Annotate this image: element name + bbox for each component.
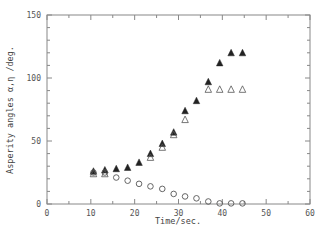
open-triangle-marker (205, 86, 212, 93)
filled-triangle-marker (136, 159, 143, 166)
x-tick-label: 10 (86, 209, 96, 218)
x-tick-label: 0 (45, 209, 50, 218)
x-tick-label: 50 (261, 209, 271, 218)
open-circle-marker (136, 181, 142, 187)
plot-frame (47, 15, 310, 204)
y-tick-label: 50 (31, 137, 41, 146)
open-triangle-marker (216, 86, 223, 93)
filled-triangle-marker (193, 97, 200, 104)
open-circle-marker (148, 184, 154, 190)
filled-triangle-marker (239, 49, 246, 56)
open-circle-marker (217, 201, 223, 207)
y-tick-label: 0 (36, 200, 41, 209)
filled-triangle-marker (182, 107, 189, 114)
filled-triangle-marker (113, 165, 120, 172)
filled-triangle-marker (216, 59, 223, 65)
axis-ticks (47, 15, 310, 204)
open-triangle-marker (228, 86, 235, 93)
scatter-chart: 0102030405060050100150 Time/sec. Asperit… (0, 0, 323, 241)
tick-labels: 0102030405060050100150 (27, 11, 315, 218)
open-circle-marker (228, 201, 234, 207)
data-points (90, 49, 246, 206)
open-circle-marker (159, 186, 165, 192)
y-tick-label: 150 (27, 11, 42, 20)
x-tick-label: 60 (305, 209, 315, 218)
filled-triangle-marker (124, 164, 131, 171)
x-axis-label: Time/sec. (155, 216, 201, 226)
x-tick-label: 40 (218, 209, 228, 218)
y-tick-label: 100 (27, 74, 42, 83)
open-triangle-marker (182, 116, 189, 123)
open-triangle-marker (239, 86, 246, 93)
filled-triangle-marker (228, 49, 235, 56)
open-circle-marker (206, 199, 212, 205)
open-circle-marker (194, 196, 200, 202)
open-circle-marker (171, 191, 177, 197)
open-circle-marker (125, 178, 131, 184)
open-circle-marker (113, 175, 119, 181)
y-axis-label: Asperity angles α,η /deg. (5, 46, 15, 174)
open-circle-marker (182, 194, 188, 200)
filled-triangle-marker (205, 78, 212, 85)
x-tick-label: 20 (130, 209, 140, 218)
